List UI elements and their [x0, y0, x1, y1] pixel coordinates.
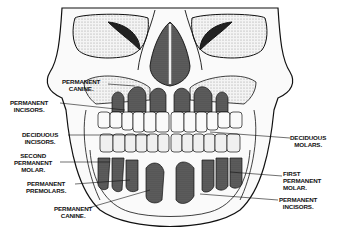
label-line: INCISORS.: [22, 138, 58, 145]
label-line: PREMOLARS.: [26, 187, 66, 194]
label-line: DECIDUOUS: [22, 131, 58, 138]
label-line: CANINE.: [54, 212, 92, 219]
label-permanent-premolars: PERMANENT PREMOLARS.: [26, 180, 66, 194]
label-line: PERMANENT: [26, 180, 66, 187]
label-line: PERMANENT: [283, 177, 321, 184]
label-line: PERMANENT: [279, 196, 317, 203]
label-line: DECIDUOUS: [290, 134, 326, 141]
label-permanent-canine-upper: PERMANENT CANINE.: [62, 78, 100, 92]
label-line: SECOND: [14, 152, 52, 159]
label-line: CANINE.: [62, 85, 100, 92]
label-line: INCISORS.: [10, 106, 48, 113]
label-line: PERMANENT: [10, 99, 48, 106]
label-line: PERMANENT: [54, 205, 92, 212]
label-line: MOLAR.: [14, 166, 52, 173]
label-line: MOLARS.: [290, 141, 326, 148]
label-line: PERMANENT: [14, 159, 52, 166]
label-line: INCISORS.: [279, 203, 317, 210]
label-line: MOLAR.: [283, 184, 321, 191]
label-line: PERMANENT: [62, 78, 100, 85]
label-permanent-incisors-left: PERMANENT INCISORS.: [10, 99, 48, 113]
label-deciduous-molars: DECIDUOUS MOLARS.: [290, 134, 326, 148]
label-permanent-canine-lower: PERMANENT CANINE.: [54, 205, 92, 219]
label-permanent-incisors-right: PERMANENT INCISORS.: [279, 196, 317, 210]
label-first-permanent-molar: FIRST PERMANENT MOLAR.: [283, 170, 321, 191]
label-line: FIRST: [283, 170, 321, 177]
label-deciduous-incisors: DECIDUOUS INCISORS.: [22, 131, 58, 145]
label-second-permanent-molar: SECOND PERMANENT MOLAR.: [14, 152, 52, 173]
